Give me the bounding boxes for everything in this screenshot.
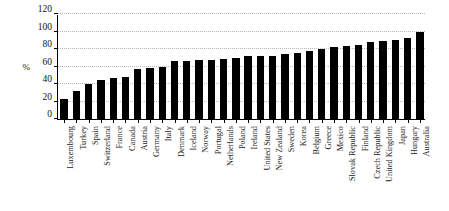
x-axis-tick-label-text: Korea [299, 126, 308, 146]
x-axis-tick [359, 119, 360, 123]
x-axis-tick-label-text: Australia [422, 126, 431, 156]
x-axis-tick-label: Denmark [177, 126, 186, 157]
bar [257, 56, 264, 119]
x-axis-tick-label-text: Spain [91, 126, 100, 145]
x-axis-tick-label-text: Norway [201, 126, 210, 153]
bar-series [58, 15, 425, 119]
bar [343, 46, 350, 120]
x-axis-tick-label-text: Italy [164, 126, 173, 141]
bar [379, 41, 386, 119]
x-axis-tick-label-text: Iceland [189, 126, 198, 150]
x-axis-tick-label: France [115, 126, 124, 149]
x-axis-tick-label: Hungary [410, 126, 419, 155]
x-axis-tick-label: Switzerland [103, 126, 112, 166]
x-axis-tick-label: Finland [361, 126, 370, 151]
y-axis-tick-label: 0 [47, 109, 52, 119]
x-axis-tick [162, 119, 163, 123]
x-axis-tick [175, 119, 176, 123]
x-axis-tick-label-text: Japan [398, 126, 407, 145]
x-axis-tick [113, 119, 114, 123]
x-axis-tick-label: Italy [164, 126, 173, 141]
x-axis-tick [371, 119, 372, 123]
x-axis-tick-label: Austria [140, 126, 149, 150]
x-axis-tick [199, 119, 200, 123]
x-axis-tick [383, 119, 384, 123]
bar [97, 80, 104, 119]
y-axis-tick-label: 100 [38, 22, 52, 32]
x-axis-tick-label: Sweden [287, 126, 296, 152]
x-axis-tick-label: Luxembourg [66, 126, 75, 169]
plot-area: 020406080100120 [57, 15, 425, 120]
x-axis-tick-label-text: Netherlands [226, 126, 235, 166]
x-axis-tick [125, 119, 126, 123]
x-axis-tick [187, 119, 188, 123]
bar [330, 47, 337, 119]
x-axis-tick-label-text: Canada [128, 126, 137, 151]
bar [232, 58, 239, 119]
x-axis-tick-label-text: Hungary [410, 126, 419, 155]
bar [159, 67, 166, 120]
bar [208, 60, 215, 120]
x-axis-tick-label-text: France [115, 126, 124, 149]
x-axis-tick-label-text: Greece [324, 126, 333, 150]
x-axis-tick [150, 119, 151, 123]
x-axis-tick-label: United Kingdom [385, 126, 394, 182]
bar [355, 45, 362, 119]
y-axis-tick-label: 80 [43, 39, 53, 49]
x-axis-tick-label: Spain [91, 126, 100, 145]
x-axis-tick-labels: LuxembourgTurkeySpainSwitzerlandFranceCa… [57, 126, 425, 211]
x-axis-tick-label-text: Belgium [312, 126, 321, 155]
x-axis-tick [285, 119, 286, 123]
x-axis-tick-label-text: Luxembourg [66, 126, 75, 169]
bar [269, 56, 276, 119]
x-axis-tick [138, 119, 139, 123]
x-axis-tick-label-text: United Kingdom [385, 126, 394, 182]
bar [73, 91, 80, 119]
x-axis-tick-label: Slovak Republic [348, 126, 357, 181]
x-axis-tick-label: Canada [128, 126, 137, 151]
bar [195, 60, 202, 119]
bar [85, 84, 92, 119]
x-axis-tick [248, 119, 249, 123]
x-axis-tick-label: Ireland [250, 126, 259, 150]
x-axis-tick-label-text: Czech Republic [373, 126, 382, 179]
x-axis-tick-label: Czech Republic [373, 126, 382, 179]
x-axis-tick-label-text: Switzerland [103, 126, 112, 166]
y-axis-tick-label: 40 [43, 74, 53, 84]
x-axis-tick-label-text: Ireland [250, 126, 259, 150]
y-axis-tick [54, 13, 58, 14]
x-axis-tick-label: Poland [238, 126, 247, 149]
x-axis-tick-label-text: Portugal [214, 126, 223, 154]
gridline [58, 13, 425, 14]
x-axis-tick [309, 119, 310, 123]
bar [244, 56, 251, 119]
x-axis-tick [273, 119, 274, 123]
bar [318, 49, 325, 119]
x-axis-tick-label-text: Denmark [177, 126, 186, 157]
bar [416, 32, 423, 120]
bar [134, 69, 141, 119]
bar [171, 61, 178, 119]
x-axis-tick [297, 119, 298, 123]
x-axis-tick [322, 119, 323, 123]
x-axis-tick [236, 119, 237, 123]
bar [146, 68, 153, 119]
x-axis-tick-label-text: Germany [152, 126, 161, 157]
x-axis-tick-label: Greece [324, 126, 333, 150]
x-axis-tick-label: Germany [152, 126, 161, 157]
bar [122, 77, 129, 119]
x-axis-tick-label-text: Finland [361, 126, 370, 151]
x-axis-tick-label-text: Poland [238, 126, 247, 149]
bar [306, 51, 313, 119]
bar [60, 99, 67, 119]
x-axis-tick-label: Belgium [312, 126, 321, 155]
bar [404, 38, 411, 119]
x-axis-tick [334, 119, 335, 123]
x-axis-tick-label-text: Slovak Republic [348, 126, 357, 181]
y-axis-tick-label: 20 [43, 92, 53, 102]
x-axis-tick-label: Korea [299, 126, 308, 146]
x-axis-tick-label: Iceland [189, 126, 198, 150]
x-axis-tick-label-text: United States [263, 126, 272, 170]
x-axis-tick [89, 119, 90, 123]
x-axis-tick [76, 119, 77, 123]
